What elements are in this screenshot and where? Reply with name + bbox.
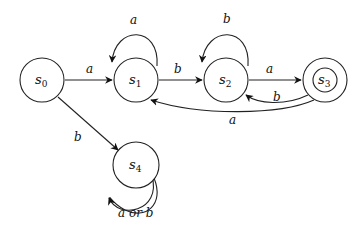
fsa-diagram: a b a b b a b a a or b s0 s1 [0,0,359,249]
svg-text:b: b [174,62,182,76]
svg-text:a: a [130,13,137,27]
svg-text:a: a [266,62,273,76]
state-s0: s0 [20,58,64,102]
state-s1: s1 [114,58,158,102]
state-s2: s2 [204,58,248,102]
state-s4: s4 [113,142,159,188]
state-s3-accepting: s3 [303,58,347,102]
edge-s1-s2: b [159,62,202,80]
svg-text:b: b [74,130,82,144]
edge-s0-s4: b [58,97,118,150]
edge-s3-s1: a [151,100,314,127]
svg-text:a: a [86,62,93,76]
svg-text:b: b [273,90,281,104]
edge-s0-s1: a [65,62,112,80]
edge-s2-s3: a [249,62,301,80]
edge-s3-s2: b [246,90,308,104]
svg-text:a or b: a or b [118,206,153,220]
svg-text:a: a [229,113,236,127]
svg-text:b: b [223,12,231,26]
